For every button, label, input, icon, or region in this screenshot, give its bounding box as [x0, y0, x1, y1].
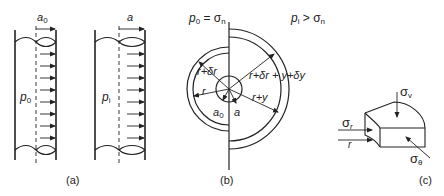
- label-r-c: r: [348, 139, 352, 150]
- label-pi: pi: [101, 90, 111, 105]
- right-condition: pi > σn: [290, 11, 325, 26]
- label-a: a: [127, 11, 133, 23]
- label-p0: p0: [19, 90, 32, 105]
- label-sigma-v: σv: [400, 84, 412, 100]
- panel-a: [15, 26, 145, 165]
- label-r-dr-y-dy: r+δr + y+δy: [249, 69, 306, 81]
- caption-a: (a): [66, 174, 79, 186]
- label-r: r: [202, 85, 207, 97]
- label-sigma-r: σr: [342, 115, 353, 131]
- caption-b: (b): [220, 174, 233, 186]
- label-a0: a0: [37, 11, 48, 25]
- label-r-plus-y: r+y: [252, 91, 269, 103]
- left-condition: p0 = σn: [188, 11, 226, 26]
- label-sigma-theta: σθ: [410, 151, 423, 167]
- cavity-expansion-diagram: a0 a p0 pi (a) p0 = σn pi > σn r+δr r a0…: [0, 0, 444, 196]
- caption-c: (c): [419, 174, 432, 186]
- label-r-plus-dr: r+δr: [197, 65, 218, 77]
- label-a0-b: a0: [213, 106, 224, 120]
- label-a-b: a: [234, 106, 240, 118]
